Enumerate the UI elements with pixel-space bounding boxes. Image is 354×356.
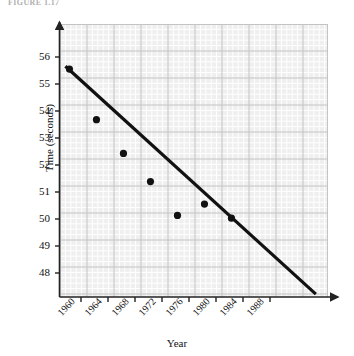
scatter-plot-chart: 56 55 54 53 52 51 50 49 48 1960 1964 196… <box>0 0 354 356</box>
y-tick-label: 56 <box>20 51 50 62</box>
y-tick-label: 49 <box>20 240 50 251</box>
trend-line <box>65 66 315 294</box>
plot-area <box>60 24 328 297</box>
x-tick-label: 1988 <box>245 296 266 317</box>
x-tick-label: 1972 <box>137 296 158 317</box>
x-tick-label: 1980 <box>191 296 212 317</box>
data-point <box>66 65 73 72</box>
x-tick-label: 1968 <box>110 296 131 317</box>
data-layer <box>60 24 328 297</box>
x-tick-label: 1960 <box>56 296 77 317</box>
y-axis-title: Time (seconds) <box>43 83 55 193</box>
x-tick-label: 1976 <box>164 296 185 317</box>
y-tick-label: 50 <box>20 213 50 224</box>
data-point <box>147 178 154 185</box>
data-point <box>228 215 235 222</box>
x-tick-label: 1964 <box>83 296 104 317</box>
y-tick-label: 48 <box>20 267 50 278</box>
data-point <box>201 201 208 208</box>
x-tick-label: 1984 <box>218 296 239 317</box>
data-point <box>174 212 181 219</box>
data-point <box>120 150 127 157</box>
data-point <box>93 116 100 123</box>
x-axis-title: Year <box>0 337 354 349</box>
